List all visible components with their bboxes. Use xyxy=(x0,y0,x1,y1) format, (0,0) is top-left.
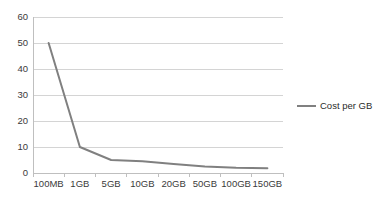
x-axis-tick-label: 150GB xyxy=(253,179,283,189)
chart-container: 0102030405060 100MB1GB5GB10GB20GB50GB100… xyxy=(0,0,380,210)
x-axis-tick-label: 1GB xyxy=(70,179,89,189)
y-axis-tick-label: 20 xyxy=(0,116,28,126)
plot-area xyxy=(33,17,283,173)
data-series-layer xyxy=(33,17,283,173)
x-axis-tick-label: 100GB xyxy=(221,179,251,189)
series-line xyxy=(49,43,268,168)
x-axis-tick-label: 10GB xyxy=(130,179,154,189)
chart-legend: Cost per GB xyxy=(297,101,372,111)
x-axis-tick-label: 20GB xyxy=(161,179,185,189)
y-axis-tick-label: 10 xyxy=(0,142,28,152)
x-axis-tick-label: 50GB xyxy=(193,179,217,189)
legend-entry-label: Cost per GB xyxy=(320,101,372,111)
y-axis-tick-label: 60 xyxy=(0,12,28,22)
y-axis-tick-label: 0 xyxy=(0,168,28,178)
y-axis-tick-labels: 0102030405060 xyxy=(0,17,28,173)
x-axis-tick-label: 5GB xyxy=(102,179,121,189)
y-axis-tick-label: 40 xyxy=(0,64,28,74)
x-axis-tick-labels: 100MB1GB5GB10GB20GB50GB100GB150GB xyxy=(33,179,283,193)
y-axis-tick-label: 50 xyxy=(0,38,28,48)
y-axis-tick-label: 30 xyxy=(0,90,28,100)
x-axis-tick-label: 100MB xyxy=(34,179,64,189)
legend-line-marker-icon xyxy=(297,105,316,107)
